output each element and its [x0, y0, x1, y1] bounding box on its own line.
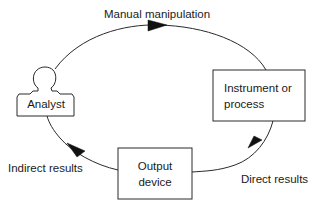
node-output: Output device	[118, 148, 192, 199]
node-instrument: Instrument or process	[213, 70, 305, 121]
analyst-label: Analyst	[27, 98, 66, 110]
arrowhead-right-icon	[148, 20, 167, 31]
label-direct-results: Direct results	[241, 173, 308, 185]
output-label-line1: Output	[138, 160, 173, 172]
edge-manual-manipulation	[55, 25, 266, 70]
instrument-label-line1: Instrument or	[224, 82, 292, 94]
analysis-cycle-diagram: Analyst Instrument or process Output dev…	[0, 0, 316, 208]
arrowhead-up-left-icon	[67, 143, 85, 157]
edge-direct-results	[192, 121, 273, 172]
node-analyst: Analyst	[17, 67, 74, 116]
instrument-box	[213, 70, 305, 121]
label-indirect-results: Indirect results	[8, 162, 83, 174]
arrowhead-down-left-icon	[248, 136, 262, 148]
instrument-label-line2: process	[224, 98, 265, 110]
output-box	[118, 148, 192, 199]
label-manual-manipulation: Manual manipulation	[104, 8, 210, 20]
output-label-line2: device	[138, 176, 171, 188]
